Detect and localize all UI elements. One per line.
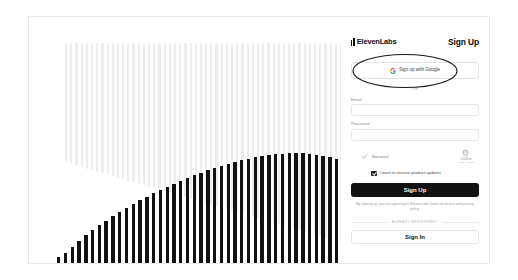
waveform-bar: [98, 225, 101, 263]
elevenlabs-bars-icon: [351, 38, 355, 46]
turnstile-status-text: Success!: [372, 155, 389, 159]
divider-line-left: [351, 222, 388, 223]
signup-submit-button[interactable]: Sign Up: [351, 183, 479, 197]
waveform-bar: [294, 153, 297, 263]
legal-text: By signing up, you are agreeing to Eleve…: [351, 202, 479, 213]
waveform-bar: [260, 156, 263, 263]
google-g-icon: [390, 68, 396, 74]
waveform-bar: [220, 166, 223, 263]
email-label: Email: [351, 98, 479, 102]
waveform-bar: [321, 156, 324, 263]
password-label: Password: [351, 122, 479, 126]
waveform-bar: [57, 257, 60, 263]
waveform-bar: [118, 212, 121, 263]
product-updates-label: I want to receive product updates: [380, 171, 442, 175]
waveform-bar: [247, 159, 250, 263]
already-registered-divider: ALREADY REGISTERED?: [351, 221, 479, 224]
waveform-bar: [233, 162, 236, 263]
waveform-bar: [166, 187, 169, 263]
waveform-bar: [301, 153, 304, 263]
waveform-bar: [71, 247, 74, 263]
cloudflare-turnstile-widget[interactable]: Success! Cloudflare Privacy • Terms: [351, 147, 479, 167]
waveform-bar: [206, 170, 209, 263]
waveform-bar: [328, 157, 331, 263]
waveform-bar: [281, 154, 284, 263]
waveform-bar: [77, 241, 80, 263]
brand-name: ElevenLabs: [357, 38, 397, 45]
waveform-bar: [172, 184, 175, 263]
waveform-bar: [179, 181, 182, 263]
page-title: Sign Up: [448, 38, 479, 46]
password-input[interactable]: [351, 129, 479, 141]
or-divider: OR: [351, 87, 479, 91]
waveform-bar: [274, 154, 277, 263]
elevenlabs-logo: ElevenLabs: [351, 38, 396, 46]
waveform-bar: [159, 190, 162, 263]
email-field-group: Email: [351, 98, 479, 116]
waveform-bar: [132, 204, 135, 263]
waveform-bar: [254, 157, 257, 263]
card-header: ElevenLabs Sign Up: [351, 35, 479, 49]
waveform-bar: [227, 164, 230, 263]
cloudflare-icon: [461, 149, 470, 158]
product-updates-checkbox-row[interactable]: I want to receive product updates: [351, 171, 479, 177]
turnstile-status: Success!: [361, 153, 389, 160]
screenshot-root: ElevenLabs Sign Up Sign up with Google O…: [0, 0, 518, 280]
waveform-bar: [145, 197, 148, 263]
waveform-bar: [193, 175, 196, 263]
waveform-bar: [91, 230, 94, 263]
waveform-bar: [267, 155, 270, 263]
signup-with-google-button[interactable]: Sign up with Google: [351, 62, 479, 79]
already-registered-text: ALREADY REGISTERED?: [392, 221, 438, 224]
email-input[interactable]: [351, 104, 479, 116]
turnstile-branding: Cloudflare Privacy • Terms: [458, 149, 474, 164]
waveform-bar: [308, 154, 311, 263]
waveform-bar: [125, 208, 128, 263]
divider-line-right: [442, 222, 479, 223]
cloudflare-links[interactable]: Privacy • Terms: [458, 162, 474, 164]
signup-card: ElevenLabs Sign Up Sign up with Google O…: [341, 17, 489, 263]
waveform-bar: [138, 200, 141, 263]
check-icon: [361, 153, 368, 160]
waveform-bar: [84, 235, 87, 263]
signin-button[interactable]: Sign In: [351, 230, 479, 244]
waveform-bar: [288, 153, 291, 263]
waveform-bar: [186, 178, 189, 263]
password-field-group: Password: [351, 122, 479, 140]
waveform-bar: [152, 193, 155, 263]
signup-submit-label: Sign Up: [404, 187, 427, 193]
waveform-bar: [335, 159, 338, 263]
waveform-bar: [104, 221, 107, 263]
signin-button-label: Sign In: [405, 234, 425, 240]
waveform-bar: [213, 168, 216, 263]
waveform-bar: [199, 173, 202, 263]
google-button-label: Sign up with Google: [399, 68, 440, 73]
product-updates-checkbox[interactable]: [371, 171, 377, 177]
waveform-bar: [111, 216, 114, 263]
waveform-bar: [64, 253, 67, 263]
waveform-bar: [240, 160, 243, 263]
waveform-bar: [315, 155, 318, 263]
